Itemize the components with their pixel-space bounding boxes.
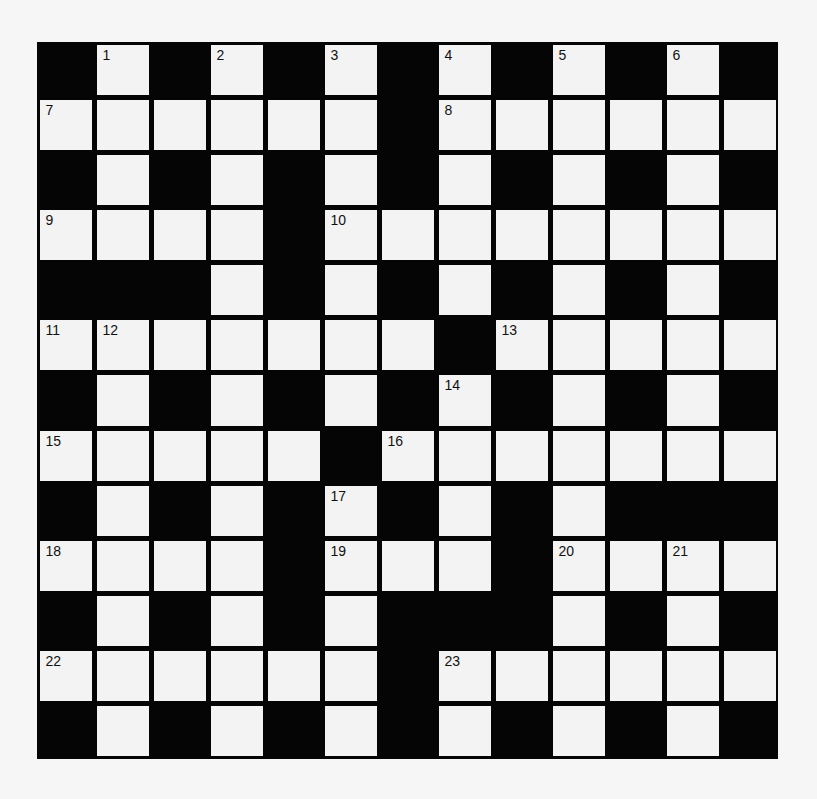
grid-cell[interactable]	[610, 541, 662, 591]
grid-cell[interactable]	[439, 431, 491, 481]
grid-cell[interactable]	[211, 706, 263, 756]
grid-cell[interactable]	[439, 265, 491, 315]
grid-cell[interactable]	[724, 541, 776, 591]
grid-cell[interactable]	[211, 155, 263, 205]
grid-cell[interactable]	[97, 375, 149, 425]
grid-cell[interactable]	[667, 375, 719, 425]
grid-cell[interactable]	[553, 210, 605, 260]
grid-cell[interactable]	[211, 320, 263, 370]
grid-cell[interactable]	[496, 431, 548, 481]
grid-cell[interactable]	[268, 320, 320, 370]
grid-cell[interactable]: 3	[325, 45, 377, 95]
grid-cell[interactable]: 10	[325, 210, 377, 260]
grid-cell[interactable]: 17	[325, 486, 377, 536]
grid-cell[interactable]	[667, 651, 719, 701]
grid-cell[interactable]	[724, 431, 776, 481]
grid-cell[interactable]	[724, 210, 776, 260]
grid-cell[interactable]: 20	[553, 541, 605, 591]
grid-cell[interactable]: 16	[382, 431, 434, 481]
grid-cell[interactable]: 13	[496, 320, 548, 370]
grid-cell[interactable]	[97, 706, 149, 756]
grid-cell[interactable]: 4	[439, 45, 491, 95]
grid-cell[interactable]	[268, 431, 320, 481]
grid-cell[interactable]	[553, 431, 605, 481]
grid-cell[interactable]: 1	[97, 45, 149, 95]
grid-cell[interactable]	[610, 320, 662, 370]
grid-cell[interactable]	[553, 155, 605, 205]
grid-cell[interactable]	[553, 265, 605, 315]
grid-cell[interactable]	[610, 210, 662, 260]
grid-cell[interactable]	[439, 486, 491, 536]
grid-cell[interactable]	[97, 596, 149, 646]
grid-cell[interactable]: 8	[439, 100, 491, 150]
grid-cell[interactable]: 19	[325, 541, 377, 591]
grid-cell[interactable]	[211, 651, 263, 701]
grid-cell[interactable]	[667, 210, 719, 260]
grid-cell[interactable]	[154, 431, 206, 481]
grid-cell[interactable]	[211, 375, 263, 425]
grid-cell[interactable]	[667, 706, 719, 756]
grid-cell[interactable]	[97, 210, 149, 260]
grid-cell[interactable]	[439, 541, 491, 591]
grid-cell[interactable]	[610, 431, 662, 481]
grid-cell[interactable]: 21	[667, 541, 719, 591]
grid-cell[interactable]	[724, 320, 776, 370]
grid-cell[interactable]	[325, 100, 377, 150]
grid-cell[interactable]	[496, 651, 548, 701]
grid-cell[interactable]: 12	[97, 320, 149, 370]
grid-cell[interactable]	[496, 100, 548, 150]
grid-cell[interactable]	[211, 596, 263, 646]
grid-cell[interactable]	[154, 210, 206, 260]
grid-cell[interactable]: 2	[211, 45, 263, 95]
grid-cell[interactable]: 7	[40, 100, 92, 150]
grid-cell[interactable]	[496, 210, 548, 260]
grid-cell[interactable]: 23	[439, 651, 491, 701]
grid-cell[interactable]	[154, 541, 206, 591]
grid-cell[interactable]: 5	[553, 45, 605, 95]
grid-cell[interactable]	[553, 596, 605, 646]
grid-cell[interactable]	[553, 706, 605, 756]
grid-cell[interactable]	[439, 155, 491, 205]
grid-cell[interactable]	[439, 210, 491, 260]
grid-cell[interactable]	[325, 375, 377, 425]
grid-cell[interactable]	[211, 431, 263, 481]
grid-cell[interactable]	[268, 100, 320, 150]
grid-cell[interactable]	[724, 100, 776, 150]
grid-cell[interactable]	[97, 431, 149, 481]
grid-cell[interactable]	[439, 706, 491, 756]
grid-cell[interactable]	[667, 320, 719, 370]
grid-cell[interactable]	[667, 155, 719, 205]
grid-cell[interactable]	[211, 100, 263, 150]
grid-cell[interactable]	[553, 651, 605, 701]
grid-cell[interactable]	[97, 100, 149, 150]
grid-cell[interactable]	[325, 155, 377, 205]
grid-cell[interactable]	[211, 210, 263, 260]
grid-cell[interactable]	[667, 431, 719, 481]
grid-cell[interactable]: 18	[40, 541, 92, 591]
grid-cell[interactable]	[154, 100, 206, 150]
grid-cell[interactable]	[667, 265, 719, 315]
grid-cell[interactable]	[382, 541, 434, 591]
grid-cell[interactable]	[211, 486, 263, 536]
grid-cell[interactable]: 6	[667, 45, 719, 95]
grid-cell[interactable]	[97, 155, 149, 205]
grid-cell[interactable]	[325, 320, 377, 370]
grid-cell[interactable]	[667, 100, 719, 150]
grid-cell[interactable]: 22	[40, 651, 92, 701]
grid-cell[interactable]	[667, 596, 719, 646]
grid-cell[interactable]	[211, 541, 263, 591]
grid-cell[interactable]	[553, 375, 605, 425]
grid-cell[interactable]	[211, 265, 263, 315]
grid-cell[interactable]	[325, 651, 377, 701]
grid-cell[interactable]: 15	[40, 431, 92, 481]
grid-cell[interactable]	[154, 651, 206, 701]
grid-cell[interactable]	[382, 210, 434, 260]
grid-cell[interactable]	[382, 320, 434, 370]
grid-cell[interactable]	[325, 706, 377, 756]
grid-cell[interactable]	[154, 320, 206, 370]
grid-cell[interactable]	[268, 651, 320, 701]
grid-cell[interactable]	[553, 486, 605, 536]
grid-cell[interactable]	[325, 596, 377, 646]
grid-cell[interactable]	[97, 651, 149, 701]
grid-cell[interactable]	[97, 486, 149, 536]
